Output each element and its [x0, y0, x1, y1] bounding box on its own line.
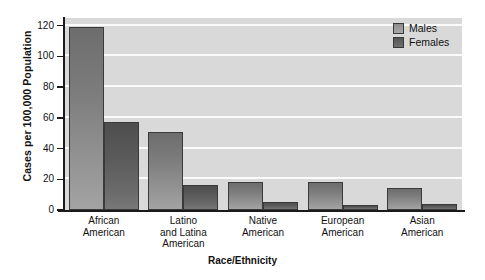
y-tick-mark: [57, 209, 64, 211]
y-tick-mark: [57, 86, 64, 88]
y-axis-line: [63, 17, 65, 211]
x-tick-label-line: American: [135, 238, 231, 250]
x-axis-title: Race/Ethnicity: [0, 255, 485, 266]
y-tick-mark: [57, 179, 64, 181]
gridline: [64, 85, 462, 87]
legend: Males Females: [393, 22, 449, 50]
x-tick-label-5: AsianAmerican: [374, 215, 470, 238]
legend-label-females: Females: [409, 37, 449, 48]
legend-swatch-females-icon: [393, 37, 404, 48]
legend-label-males: Males: [409, 23, 437, 34]
y-tick-mark: [57, 56, 64, 58]
y-tick-mark: [57, 117, 64, 119]
bar-females-2[interactable]: [183, 185, 218, 210]
bar-males-1[interactable]: [69, 27, 104, 210]
y-tick-label: 80: [43, 82, 54, 92]
bar-males-2[interactable]: [148, 132, 183, 210]
legend-item-females[interactable]: Females: [393, 36, 449, 49]
gridline: [64, 54, 462, 56]
y-tick-mark: [57, 25, 64, 27]
y-tick-label: 40: [43, 144, 54, 154]
bar-chart-figure: Cases per 100,000 Population 02040608010…: [0, 0, 485, 280]
y-tick-label: 60: [43, 113, 54, 123]
bar-males-5[interactable]: [387, 188, 422, 210]
bar-males-4[interactable]: [308, 182, 343, 210]
legend-item-males[interactable]: Males: [393, 22, 449, 35]
y-tick-mark: [57, 148, 64, 150]
x-axis-line: [58, 210, 465, 212]
bar-females-3[interactable]: [263, 202, 298, 210]
y-tick-label: 120: [37, 21, 54, 31]
x-tick-label-line: American: [374, 227, 470, 239]
y-tick-label: 20: [43, 174, 54, 184]
gridline: [64, 116, 462, 118]
y-tick-label: 100: [37, 51, 54, 61]
y-axis-title: Cases per 100,000 Population: [21, 6, 33, 206]
legend-swatch-males-icon: [393, 23, 404, 34]
bar-males-3[interactable]: [228, 182, 263, 210]
y-tick-label: 0: [48, 205, 54, 215]
bar-females-1[interactable]: [104, 122, 139, 210]
x-tick-label-line: Asian: [374, 215, 470, 227]
